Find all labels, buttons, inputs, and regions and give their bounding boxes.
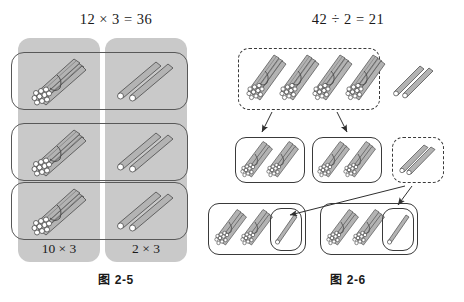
left-equation: 12 × 3 = 36 xyxy=(0,11,232,28)
two-loose-sticks xyxy=(390,62,438,102)
right-equation: 42 ÷ 2 = 21 xyxy=(232,11,464,28)
arrow-top-to-middle-1 xyxy=(262,112,272,132)
right-caption: 图 2-6 xyxy=(232,270,464,287)
column-label-tens: 10 × 3 xyxy=(18,241,100,257)
column-label-ones: 2 × 3 xyxy=(105,241,187,257)
bundle-of-ten-sticks xyxy=(24,185,96,235)
single-loose-stick xyxy=(272,211,300,247)
two-loose-sticks xyxy=(112,129,178,175)
single-loose-stick xyxy=(384,211,412,247)
figure-2-6: 42 ÷ 2 = 21 xyxy=(232,0,464,302)
two-loose-sticks xyxy=(112,58,178,104)
arrow-top-to-middle-2 xyxy=(337,112,347,132)
bundle-of-ten-sticks xyxy=(340,139,380,181)
two-loose-sticks xyxy=(112,188,178,234)
bundle-of-ten-sticks xyxy=(24,55,96,105)
bundle-of-ten-sticks xyxy=(341,52,391,104)
left-caption: 图 2-5 xyxy=(0,270,232,287)
two-loose-sticks xyxy=(396,141,440,179)
bundle-of-ten-sticks xyxy=(263,139,303,181)
figure-2-5: 12 × 3 = 36 xyxy=(0,0,232,302)
bundle-of-ten-sticks xyxy=(24,126,96,176)
